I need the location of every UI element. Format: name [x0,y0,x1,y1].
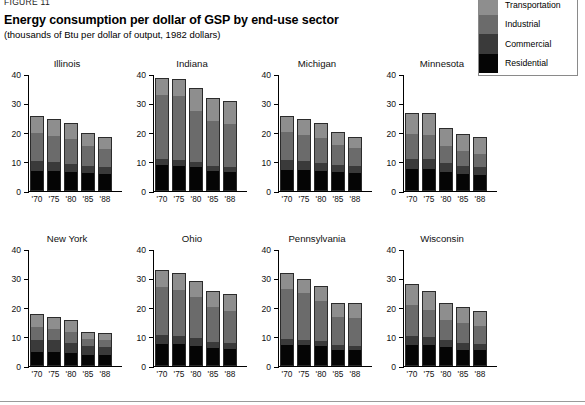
bar-segment-residential [156,344,168,365]
bar-segment-transportation [406,285,418,305]
stacked-bar[interactable] [473,137,487,191]
stacked-bar[interactable] [314,123,328,191]
stacked-bar[interactable] [331,132,345,191]
y-axis-tick-label: 20 [136,129,146,139]
x-axis-labels: '70'75'80'85'88 [403,369,497,381]
x-axis-labels: '70'75'80'85'88 [278,194,372,206]
bar-segment-transportation [156,271,168,287]
stacked-bar[interactable] [223,101,237,191]
y-axis-tick-label: 10 [136,158,146,168]
stacked-bar[interactable] [98,137,112,191]
stacked-bar[interactable] [223,294,237,366]
stacked-bar[interactable] [81,133,95,191]
x-axis-line [153,366,247,367]
stacked-bar[interactable] [30,314,44,366]
x-axis-line [28,191,122,192]
bar-segment-transportation [281,274,293,289]
stacked-bar[interactable] [473,311,487,366]
stacked-bar[interactable] [206,98,220,191]
bar-segment-residential [48,171,60,190]
stacked-bar[interactable] [297,279,311,366]
stacked-bar[interactable] [64,123,78,191]
bar-segment-industrial [298,293,310,340]
bar-segment-residential [423,345,435,365]
bar-segment-transportation [298,280,310,293]
bar-segment-transportation [349,304,361,318]
stacked-bar[interactable] [422,113,436,191]
bar-segment-commercial [281,160,293,169]
stacked-bar[interactable] [405,284,419,366]
bar-segment-residential [156,165,168,190]
stacked-bar[interactable] [314,286,328,366]
x-axis-line [278,191,372,192]
y-axis-tick-label: 40 [11,245,21,255]
bar-segment-residential [457,174,469,190]
stacked-bar[interactable] [206,291,220,366]
stacked-bar[interactable] [81,332,95,366]
bar-segment-industrial [31,133,43,162]
stacked-bar[interactable] [98,333,112,366]
stacked-bar[interactable] [155,78,169,191]
y-axis-tick [399,133,404,134]
bar-segment-commercial [332,165,344,172]
plot-area: 010203040 [153,250,247,367]
stacked-bar[interactable] [64,320,78,366]
bar-segment-transportation [207,99,219,121]
y-axis-tick-label: 10 [11,333,21,343]
plot-area: 010203040 [278,75,372,192]
x-axis-tick-label: '85 [458,194,469,204]
stacked-bar[interactable] [172,273,186,366]
bar-segment-commercial [406,336,418,344]
y-axis-tick [274,133,279,134]
bar-segment-transportation [190,89,202,111]
stacked-bar[interactable] [280,116,294,191]
panel-illinois: Illinois010203040'70'75'80'85'88 [4,58,130,218]
stacked-bar[interactable] [30,116,44,191]
stacked-bar[interactable] [422,291,436,366]
bar-segment-residential [190,167,202,190]
y-axis-tick-label: 10 [11,158,21,168]
bar-segment-transportation [332,133,344,145]
bar-segment-industrial [457,323,469,343]
legend-swatch-icon [479,0,498,15]
y-axis-tick [399,367,404,368]
stacked-bar[interactable] [47,317,61,366]
stacked-bar[interactable] [280,273,294,366]
stacked-bar[interactable] [172,79,186,191]
bar-segment-industrial [457,151,469,166]
stacked-bar[interactable] [297,119,311,191]
bar-segment-transportation [65,321,77,332]
stacked-bar[interactable] [456,134,470,191]
bar-segment-residential [207,171,219,190]
stacked-bar[interactable] [155,270,169,366]
bar-segment-residential [440,347,452,365]
bar-segment-residential [99,355,111,365]
stacked-bar[interactable] [456,307,470,366]
y-axis-tick [274,75,279,76]
stacked-bar[interactable] [189,281,203,366]
bar-segment-transportation [349,138,361,149]
bar-segment-industrial [281,289,293,339]
x-axis-tick-label: '88 [225,194,236,204]
y-axis-tick-label: 20 [261,129,271,139]
bar-segment-residential [474,350,486,365]
stacked-bar[interactable] [348,303,362,366]
legend-item-label: Transportation [505,0,561,10]
stacked-bar[interactable] [47,119,61,191]
x-axis-tick-label: '75 [424,369,435,379]
bar-segment-commercial [99,167,111,174]
stacked-bar[interactable] [439,128,453,191]
figure-label: FIGURE 11 [4,0,50,7]
stacked-bar[interactable] [331,303,345,366]
x-axis-tick-label: '75 [174,194,185,204]
stacked-bar[interactable] [405,113,419,191]
y-axis-tick-label: 0 [266,362,271,372]
bar-segment-residential [298,170,310,190]
bar-segment-industrial [48,329,60,340]
y-axis-tick [24,133,29,134]
stacked-bar[interactable] [439,303,453,366]
y-axis-tick-label: 30 [386,99,396,109]
bar-segment-residential [31,352,43,365]
stacked-bar[interactable] [189,88,203,191]
stacked-bar[interactable] [348,137,362,191]
